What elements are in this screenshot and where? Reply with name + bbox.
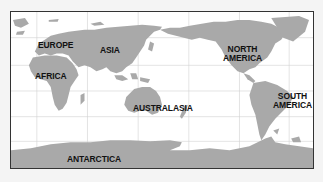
landmasses xyxy=(11,16,313,168)
world-map: EUROPE ASIA AFRICA NORTH AMERICA AUSTRAL… xyxy=(10,11,314,169)
label-europe: EUROPE xyxy=(38,41,73,50)
label-australasia: AUSTRALASIA xyxy=(133,104,193,113)
label-north-america: NORTH AMERICA xyxy=(223,45,262,62)
greenland-west-fragment xyxy=(13,18,29,28)
africa xyxy=(29,55,79,110)
south-america xyxy=(249,81,293,140)
label-south-america: SOUTH AMERICA xyxy=(273,92,312,109)
label-asia: ASIA xyxy=(100,46,120,55)
map-graphic xyxy=(11,12,313,168)
label-africa: AFRICA xyxy=(35,72,67,81)
label-antarctica: ANTARCTICA xyxy=(67,155,121,164)
